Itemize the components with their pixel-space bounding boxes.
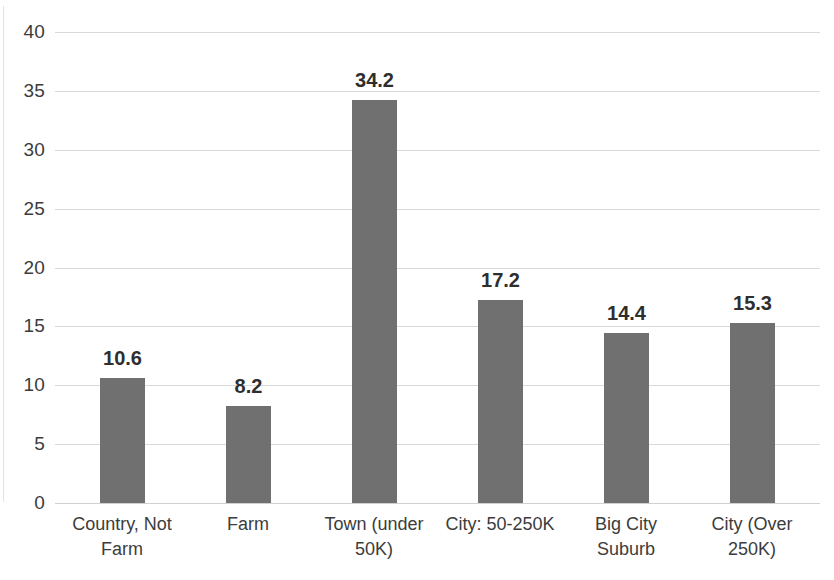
plot-area bbox=[55, 32, 820, 503]
gridline bbox=[55, 209, 820, 210]
x-axis-category-label: City (Over250K) bbox=[672, 512, 832, 562]
x-axis-category-label-line: Farm bbox=[42, 537, 202, 562]
gridline bbox=[55, 32, 820, 33]
y-axis-tick-label: 25 bbox=[0, 199, 45, 218]
x-axis-category-label-line: 250K) bbox=[672, 537, 832, 562]
x-axis-category-label-line: City (Over bbox=[672, 512, 832, 537]
y-axis-tick-label: 20 bbox=[0, 258, 45, 277]
y-axis-tick-label: 10 bbox=[0, 375, 45, 394]
y-axis-tick-label: 35 bbox=[0, 81, 45, 100]
bar-value-label: 8.2 bbox=[189, 376, 309, 396]
gridline bbox=[55, 444, 820, 445]
y-axis-tick-label: 40 bbox=[0, 22, 45, 41]
bar[interactable] bbox=[100, 378, 145, 503]
bar[interactable] bbox=[730, 323, 775, 503]
bar-value-label: 15.3 bbox=[693, 293, 813, 313]
y-axis-tick-label: 30 bbox=[0, 140, 45, 159]
y-axis-tick-label: 5 bbox=[0, 434, 45, 453]
gridline bbox=[55, 150, 820, 151]
gridline bbox=[55, 268, 820, 269]
bar[interactable] bbox=[226, 406, 271, 503]
bar-value-label: 34.2 bbox=[315, 70, 435, 90]
x-axis-category-label-line: 50K) bbox=[294, 537, 454, 562]
y-axis-tick-label: 0 bbox=[0, 493, 45, 512]
bar-value-label: 10.6 bbox=[63, 348, 183, 368]
bar-value-label: 17.2 bbox=[441, 270, 561, 290]
bar[interactable] bbox=[604, 333, 649, 503]
bar-chart: 4035302520151050 10.68.234.217.214.415.3… bbox=[0, 0, 834, 580]
y-axis-tick-label: 15 bbox=[0, 316, 45, 335]
bar[interactable] bbox=[352, 100, 397, 503]
bar-value-label: 14.4 bbox=[567, 303, 687, 323]
gridline bbox=[55, 503, 820, 504]
bar[interactable] bbox=[478, 300, 523, 503]
gridline bbox=[55, 385, 820, 386]
gridline bbox=[55, 326, 820, 327]
gridline bbox=[55, 91, 820, 92]
